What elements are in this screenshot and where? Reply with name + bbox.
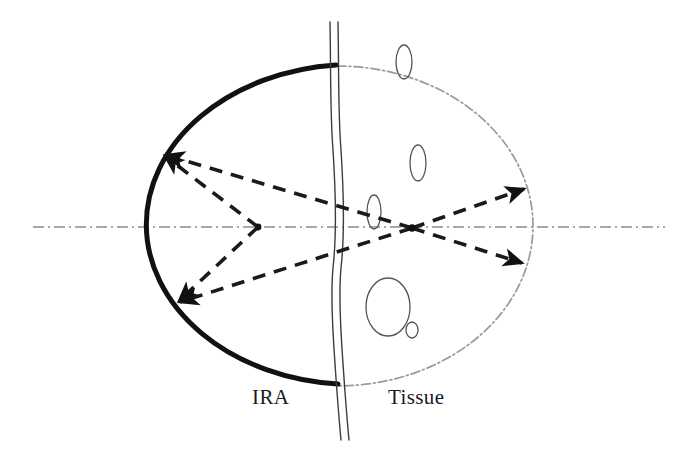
- label-tissue: Tissue: [388, 385, 445, 410]
- ray-focus-right-to-upper-right: [412, 189, 524, 228]
- label-ira: IRA: [252, 385, 289, 410]
- ray-focus-right-to-upper-left: [166, 155, 412, 228]
- interface-line-right: [338, 22, 349, 440]
- tissue-boundary-arc-path: [337, 66, 533, 386]
- tissue-inclusion-group: [366, 45, 426, 338]
- ira-reflector-arc-path: [146, 65, 338, 384]
- tissue-inclusion: [406, 322, 418, 338]
- ray-group: [165, 155, 524, 302]
- ira-tissue-interface: [330, 22, 349, 440]
- ray-focus-right-to-lower-right: [412, 228, 522, 263]
- ira-reflector-arc: [146, 65, 338, 384]
- tissue-inclusion: [396, 45, 412, 79]
- focal-point-left: [255, 224, 262, 231]
- figure-svg: [0, 0, 687, 453]
- tissue-inclusion: [410, 145, 426, 181]
- ray-focus-right-to-lower-left: [180, 228, 412, 302]
- focal-point-right: [408, 224, 416, 232]
- diagram-canvas: IRA Tissue: [0, 0, 687, 453]
- tissue-inclusion: [367, 195, 381, 229]
- tissue-inclusion: [366, 278, 410, 336]
- tissue-boundary-arc: [337, 66, 533, 386]
